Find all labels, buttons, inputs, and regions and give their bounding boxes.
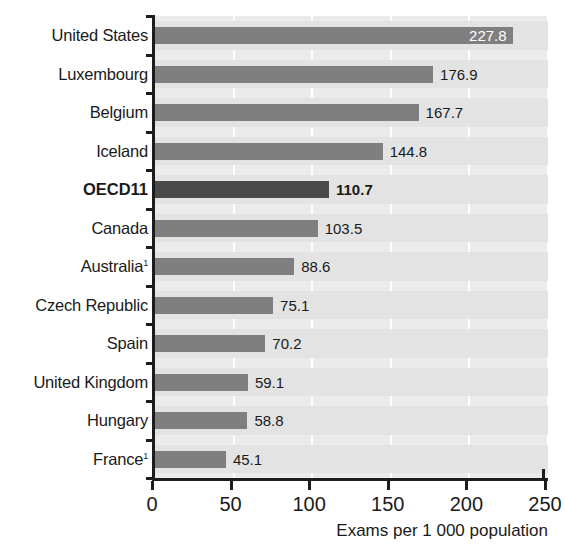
x-axis-tick-label-100: 100 [279,492,339,516]
y-axis-tick [146,54,155,57]
y-axis-tick [146,439,155,442]
y-axis-tick [146,400,155,403]
bar [155,374,248,391]
y-axis-label-text: Iceland [96,142,148,160]
plot-area: 227.8176.9167.7144.8110.7103.588.675.170… [152,16,548,481]
y-axis-tick [146,15,155,18]
y-axis-label-text: United Kingdom [33,373,148,391]
y-axis-tick [146,323,155,326]
bar-value-label: 59.1 [255,373,284,392]
bar [155,27,513,44]
bar [155,143,383,160]
x-axis-tick-label-250: 250 [515,492,565,516]
bar-row: 144.8 [155,132,548,171]
bar-value-label: 110.7 [336,180,373,199]
bar-row: 88.6 [155,247,548,286]
x-axis-end-cap [542,469,545,478]
bar-row: 75.1 [155,286,548,325]
y-axis-label-belgium: Belgium [0,102,148,122]
bar-row: 167.7 [155,93,548,132]
bar-value-label: 88.6 [301,257,330,276]
bar [155,335,265,352]
bar [155,104,419,121]
x-axis-title: Exams per 1 000 population [336,520,548,541]
y-axis-tick [146,246,155,249]
y-axis-label-text: France [93,450,143,468]
y-axis-tick [146,131,155,134]
bar [155,258,294,275]
bar-row: 45.1 [155,440,548,479]
bar [155,181,329,198]
x-axis-tick-200 [465,481,468,490]
bar-value-label: 75.1 [280,296,309,315]
y-axis-label-oecd11: OECD11 [0,179,148,199]
x-axis-tick-label-0: 0 [122,492,182,516]
y-axis-tick [146,362,155,365]
y-axis-label-text: Spain [107,334,148,352]
bar [155,66,433,83]
y-axis-label-luxembourg: Luxembourg [0,64,148,84]
x-axis-tick-250 [544,481,547,490]
y-axis-tick [146,208,155,211]
y-axis-label-hungary: Hungary [0,410,148,430]
y-axis-label-text: Czech Republic [35,296,148,314]
y-axis-label-text: Belgium [90,103,148,121]
bar-value-label: 103.5 [325,219,363,238]
bar-row: 227.8 [155,16,548,55]
y-axis-tick [146,169,155,172]
x-axis-tick-150 [387,481,390,490]
y-axis-label-iceland: Iceland [0,141,148,161]
bar [155,412,247,429]
y-axis-label-australia: Australia1 [0,256,148,276]
y-axis-label-text: Canada [91,219,148,237]
x-axis-tick-label-200: 200 [436,492,496,516]
bar-row: 176.9 [155,55,548,94]
y-axis-label-spain: Spain [0,333,148,353]
bar [155,220,318,237]
y-axis-label-czech-republic: Czech Republic [0,295,148,315]
bar-value-label: 176.9 [440,65,478,84]
bar-row: 58.8 [155,401,548,440]
x-axis-tick-50 [230,481,233,490]
y-axis-tick [146,477,155,480]
bar [155,451,226,468]
y-axis-label-text: Luxembourg [58,65,148,83]
y-axis-label-text: Hungary [87,411,148,429]
x-axis-tick-label-150: 150 [358,492,418,516]
bar-row: 70.2 [155,324,548,363]
x-axis-tick-0 [151,481,154,490]
bar-row: 103.5 [155,209,548,248]
y-axis-label-france: France1 [0,449,148,469]
y-axis-label-united-kingdom: United Kingdom [0,372,148,392]
bar-value-label: 70.2 [272,334,301,353]
y-axis-label-text: United States [52,26,148,44]
y-axis-label-canada: Canada [0,218,148,238]
bar-value-label: 45.1 [233,450,262,469]
bar-row: 110.7 [155,170,548,209]
y-axis-label-text: Australia [81,257,143,275]
x-axis-tick-100 [308,481,311,490]
y-axis-tick [146,92,155,95]
footnote-marker: 1 [143,450,148,460]
bar-value-label: 227.8 [469,26,507,45]
y-axis-label-text: OECD11 [83,180,148,198]
y-axis-label-united-states: United States [0,25,148,45]
bar [155,297,273,314]
bar-chart: 227.8176.9167.7144.8110.7103.588.675.170… [0,0,565,553]
x-axis-tick-label-50: 50 [201,492,261,516]
bar-value-label: 167.7 [426,103,464,122]
y-axis-tick [146,285,155,288]
footnote-marker: 1 [143,258,148,268]
bar-value-label: 58.8 [254,411,283,430]
bar-value-label: 144.8 [390,142,428,161]
bar-row: 59.1 [155,363,548,402]
